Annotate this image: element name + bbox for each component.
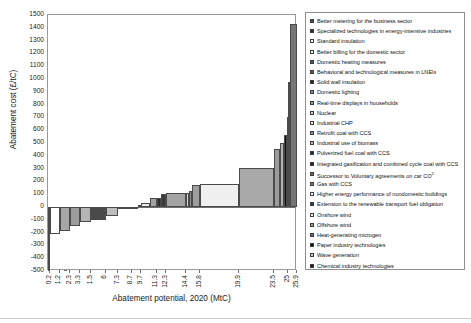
y-tick-label: 0: [40, 203, 44, 210]
x-tick-label: 15.8: [196, 275, 203, 288]
x-tick-label: 25.9: [293, 275, 300, 288]
legend-item[interactable]: Solid wall insulation: [310, 77, 461, 87]
legend-swatch-icon: [310, 29, 314, 33]
bar: [50, 207, 60, 234]
legend-item[interactable]: Chemical industry technologies: [310, 261, 461, 271]
legend-item-label: Industrial use of biomass: [317, 138, 378, 148]
legend-item[interactable]: Wave generation: [310, 250, 461, 260]
bar: [132, 207, 139, 209]
y-tick-label: 1000: [29, 75, 44, 82]
legend-item[interactable]: Pulverized fuel coal with CCS: [310, 148, 461, 158]
legend-item[interactable]: Heat-generating microgen: [310, 230, 461, 240]
legend-item[interactable]: Specialized technologies in energy-inten…: [310, 26, 461, 36]
x-tick-label: 6: [101, 275, 108, 279]
x-tick-label: 9.7: [137, 275, 144, 284]
plot-area: [47, 14, 296, 270]
y-tick-label: 500: [33, 139, 44, 146]
chart-figure: 1500140013001200110010009008007006005004…: [0, 0, 471, 323]
legend-item[interactable]: Offshore wind: [310, 220, 461, 230]
legend-item-label: Better billing for the domestic sector: [317, 47, 405, 57]
legend-swatch-icon: [310, 19, 314, 23]
legend-swatch-icon: [310, 131, 314, 135]
y-tick-label: -400: [31, 254, 44, 261]
legend-item-label: Paper industry technologies: [317, 240, 386, 250]
x-tick-mark: [199, 270, 200, 273]
x-tick-label: 2.3: [66, 275, 73, 284]
y-tick-mark: [64, 270, 67, 271]
legend-swatch-icon: [310, 60, 314, 64]
legend-item[interactable]: Industrial use of biomass: [310, 138, 461, 148]
x-tick-label: 8.7: [127, 275, 134, 284]
legend-item[interactable]: Better billing for the domestic sector: [310, 47, 461, 57]
legend-item[interactable]: Onshore wind: [310, 210, 461, 220]
legend-swatch-icon: [310, 264, 314, 268]
bar: [141, 203, 150, 207]
legend-item[interactable]: Standard insulation: [310, 36, 461, 46]
bar: [91, 207, 105, 220]
x-tick-label: 11.3: [152, 275, 159, 287]
legend-item-label: Wave generation: [317, 250, 359, 260]
legend-swatch-icon: [310, 121, 314, 125]
legend-swatch-icon: [310, 141, 314, 145]
x-tick-label: 1.5: [87, 275, 94, 284]
y-tick-label: 700: [33, 113, 44, 120]
legend-item-label: Chemical industry technologies: [317, 261, 394, 271]
y-tick-label: -100: [31, 216, 44, 223]
legend-swatch-icon: [310, 111, 314, 115]
y-tick-label: 200: [33, 177, 44, 184]
legend-item-label: Nuclear: [317, 108, 336, 118]
legend-item-label: Retrofit coal with CCS: [317, 128, 371, 138]
legend-swatch-icon: [310, 70, 314, 74]
x-tick-mark: [131, 270, 132, 273]
legend-item[interactable]: Real-time displays in households: [310, 98, 461, 108]
legend-swatch-icon: [310, 101, 314, 105]
legend-item-label: Behavioral and technological measures in…: [317, 67, 436, 77]
legend-item-label: Onshore wind: [317, 210, 351, 220]
legend-item[interactable]: Retrofit coal with CCS: [310, 128, 461, 138]
bar: [70, 207, 80, 226]
y-tick-label: 900: [33, 88, 44, 95]
legend-item-label: Domestic lighting: [317, 87, 359, 97]
x-tick-mark: [79, 270, 80, 273]
x-tick-mark: [140, 270, 141, 273]
y-tick-label: -200: [31, 228, 44, 235]
legend-item-label: Domestic heating measures: [317, 57, 386, 67]
legend-swatch-icon: [310, 223, 314, 227]
legend-item[interactable]: Behavioral and technological measures in…: [310, 67, 461, 77]
legend-item[interactable]: Paper industry technologies: [310, 240, 461, 250]
legend-swatch-icon: [310, 50, 314, 54]
y-tick-label: 800: [33, 100, 44, 107]
legend-item[interactable]: Integrated gasification and combined cyc…: [310, 159, 461, 169]
legend-item[interactable]: Domestic lighting: [310, 87, 461, 97]
x-tick-mark: [117, 270, 118, 273]
legend-item-label: Specialized technologies in energy-inten…: [317, 26, 451, 36]
legend-item-label: Better metering for the business sector: [317, 16, 412, 26]
x-tick-label: 1.2: [55, 275, 62, 284]
y-axis: 1500140013001200110010009008007006005004…: [20, 0, 47, 323]
legend-item[interactable]: Extension to the renewable transport fue…: [310, 199, 461, 209]
legend-item[interactable]: Industrial CHP: [310, 118, 461, 128]
x-tick-label: 3.3: [75, 275, 82, 284]
x-tick-label: 19.9: [235, 275, 242, 288]
x-tick-mark: [185, 270, 186, 273]
legend-item[interactable]: Domestic heating measures: [310, 57, 461, 67]
legend-item[interactable]: Higher energy performance of nondomestic…: [310, 189, 461, 199]
bar: [80, 207, 92, 222]
bar: [239, 168, 274, 207]
y-tick-label: 1300: [29, 36, 44, 43]
bar: [150, 198, 157, 207]
x-tick-label: 7.3: [114, 275, 121, 284]
x-tick-mark: [59, 270, 60, 273]
y-tick-label: 400: [33, 152, 44, 159]
legend-swatch-icon: [310, 172, 314, 176]
bar: [118, 207, 131, 209]
x-tick-mark: [238, 270, 239, 273]
legend-swatch-icon: [310, 192, 314, 196]
y-tick-label: -500: [31, 267, 44, 274]
legend-item-label: Integrated gasification and combined cyc…: [317, 159, 458, 169]
legend-item-label: Offshore wind: [317, 220, 351, 230]
legend-item[interactable]: Successor to Voluntary agreements on car…: [310, 169, 461, 179]
legend-item[interactable]: Nuclear: [310, 108, 461, 118]
legend-item[interactable]: Better metering for the business sector: [310, 16, 461, 26]
legend-swatch-icon: [310, 182, 314, 186]
